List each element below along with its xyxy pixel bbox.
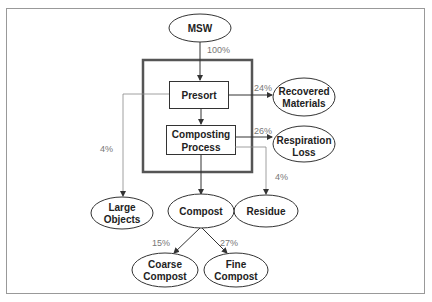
arrow-composting-residue: [235, 147, 266, 194]
node-compost: Compost: [168, 194, 234, 228]
flow-label-fine: 27%: [220, 238, 238, 248]
node-residue-label: Residue: [247, 206, 286, 217]
node-composting-process: Composting Process: [167, 126, 236, 155]
node-presort-label: Presort: [181, 90, 217, 101]
node-fine-compost: Fine Compost: [204, 253, 268, 287]
node-respiration-label-1: Respiration: [276, 135, 331, 146]
node-coarse-label-1: Coarse: [148, 259, 182, 270]
flow-label-msw: 100%: [207, 45, 230, 55]
node-fine-label-2: Compost: [214, 271, 258, 282]
node-coarse-compost: Coarse Compost: [132, 253, 198, 287]
node-recovered-materials: Recovered Materials: [273, 78, 335, 116]
node-recovered-label-1: Recovered: [278, 86, 329, 97]
flow-label-recovered: 24%: [254, 83, 272, 93]
node-large-label-1: Large: [108, 202, 136, 213]
node-recovered-label-2: Materials: [282, 98, 326, 109]
node-presort: Presort: [170, 82, 229, 109]
system-boundary-box: [143, 60, 252, 172]
node-composting-label-1: Composting: [172, 129, 230, 140]
node-msw-label: MSW: [188, 23, 213, 34]
arrow-compost-coarse: [174, 228, 200, 253]
flow-label-respiration: 26%: [254, 126, 272, 136]
node-large-label-2: Objects: [104, 214, 141, 225]
node-respiration-loss: Respiration Loss: [273, 126, 335, 162]
diagram-canvas: MSW 100% Presort Composting Process 24% …: [0, 0, 432, 302]
node-fine-label-1: Fine: [226, 259, 247, 270]
flow-label-residue: 4%: [275, 172, 288, 182]
arrow-presort-large-objects: [123, 94, 169, 196]
node-compost-label: Compost: [179, 206, 223, 217]
flow-label-coarse: 15%: [152, 238, 170, 248]
node-residue: Residue: [234, 195, 298, 227]
flow-label-large-objects: 4%: [100, 144, 113, 154]
node-msw: MSW: [169, 14, 231, 42]
node-coarse-label-2: Compost: [143, 271, 187, 282]
node-composting-label-2: Process: [182, 142, 221, 153]
node-large-objects: Large Objects: [91, 197, 153, 229]
node-respiration-label-2: Loss: [292, 147, 316, 158]
